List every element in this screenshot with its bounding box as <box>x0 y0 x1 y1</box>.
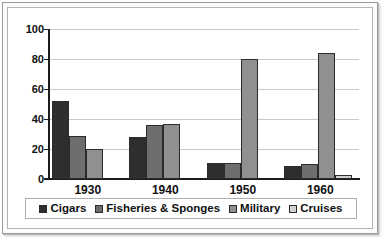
y-tick-80 <box>44 59 49 60</box>
plot-area <box>49 29 359 179</box>
chart-legend: CigarsFisheries & SpongesMilitaryCruises <box>25 198 357 219</box>
bar-military-1930 <box>86 149 103 179</box>
bar-group-1950 <box>207 29 275 179</box>
y-tick-40 <box>44 119 49 120</box>
chart-outer-frame: 020406080100 1930194019501960 CigarsFish… <box>2 2 378 234</box>
y-tick-0 <box>44 179 49 180</box>
bar-fisheries-&-sponges-1960 <box>301 164 318 179</box>
legend-item-cigars[interactable]: Cigars <box>39 203 86 215</box>
y-axis-tick-label: 100 <box>10 24 44 35</box>
bar-fisheries-&-sponges-1950 <box>224 163 241 180</box>
x-axis-category-label: 1940 <box>127 184 205 196</box>
legend-label: Military <box>240 203 280 215</box>
chart-inner-frame: 020406080100 1930194019501960 CigarsFish… <box>7 7 373 229</box>
bar-military-1960 <box>318 53 335 179</box>
bar-cigars-1940 <box>129 137 146 179</box>
legend-item-fisheries-&-sponges[interactable]: Fisheries & Sponges <box>95 203 220 215</box>
y-tick-20 <box>44 149 49 150</box>
x-axis-category-label: 1960 <box>282 184 360 196</box>
y-axis-tick-label: 0 <box>10 174 44 185</box>
y-axis-tick-label: 40 <box>10 114 44 125</box>
legend-label: Fisheries & Sponges <box>106 203 220 215</box>
y-axis-line <box>48 29 50 180</box>
bar-fisheries-&-sponges-1930 <box>69 136 86 180</box>
legend-label: Cruises <box>300 203 342 215</box>
legend-item-military[interactable]: Military <box>229 203 280 215</box>
bar-group-1960 <box>284 29 352 179</box>
y-tick-60 <box>44 89 49 90</box>
y-axis-tick-label: 60 <box>10 84 44 95</box>
legend-swatch-icon <box>39 205 47 213</box>
y-axis-label-group: 020406080100 <box>8 29 44 179</box>
legend-swatch-icon <box>289 205 297 213</box>
bar-group-1930 <box>52 29 120 179</box>
y-axis-tick-label: 80 <box>10 54 44 65</box>
bar-military-1950 <box>241 59 258 179</box>
bar-cruises-1960 <box>335 175 352 180</box>
y-axis-tick-label: 20 <box>10 144 44 155</box>
legend-swatch-icon <box>95 205 103 213</box>
legend-label: Cigars <box>50 203 86 215</box>
bar-fisheries-&-sponges-1940 <box>146 125 163 179</box>
x-axis-category-label: 1950 <box>204 184 282 196</box>
bar-cigars-1950 <box>207 163 224 180</box>
y-tick-100 <box>44 29 49 30</box>
bar-group-1940 <box>129 29 197 179</box>
bar-cigars-1960 <box>284 166 301 180</box>
legend-swatch-icon <box>229 205 237 213</box>
x-axis-category-label: 1930 <box>49 184 127 196</box>
bar-military-1940 <box>163 124 180 180</box>
bar-cigars-1930 <box>52 101 69 179</box>
legend-item-cruises[interactable]: Cruises <box>289 203 342 215</box>
